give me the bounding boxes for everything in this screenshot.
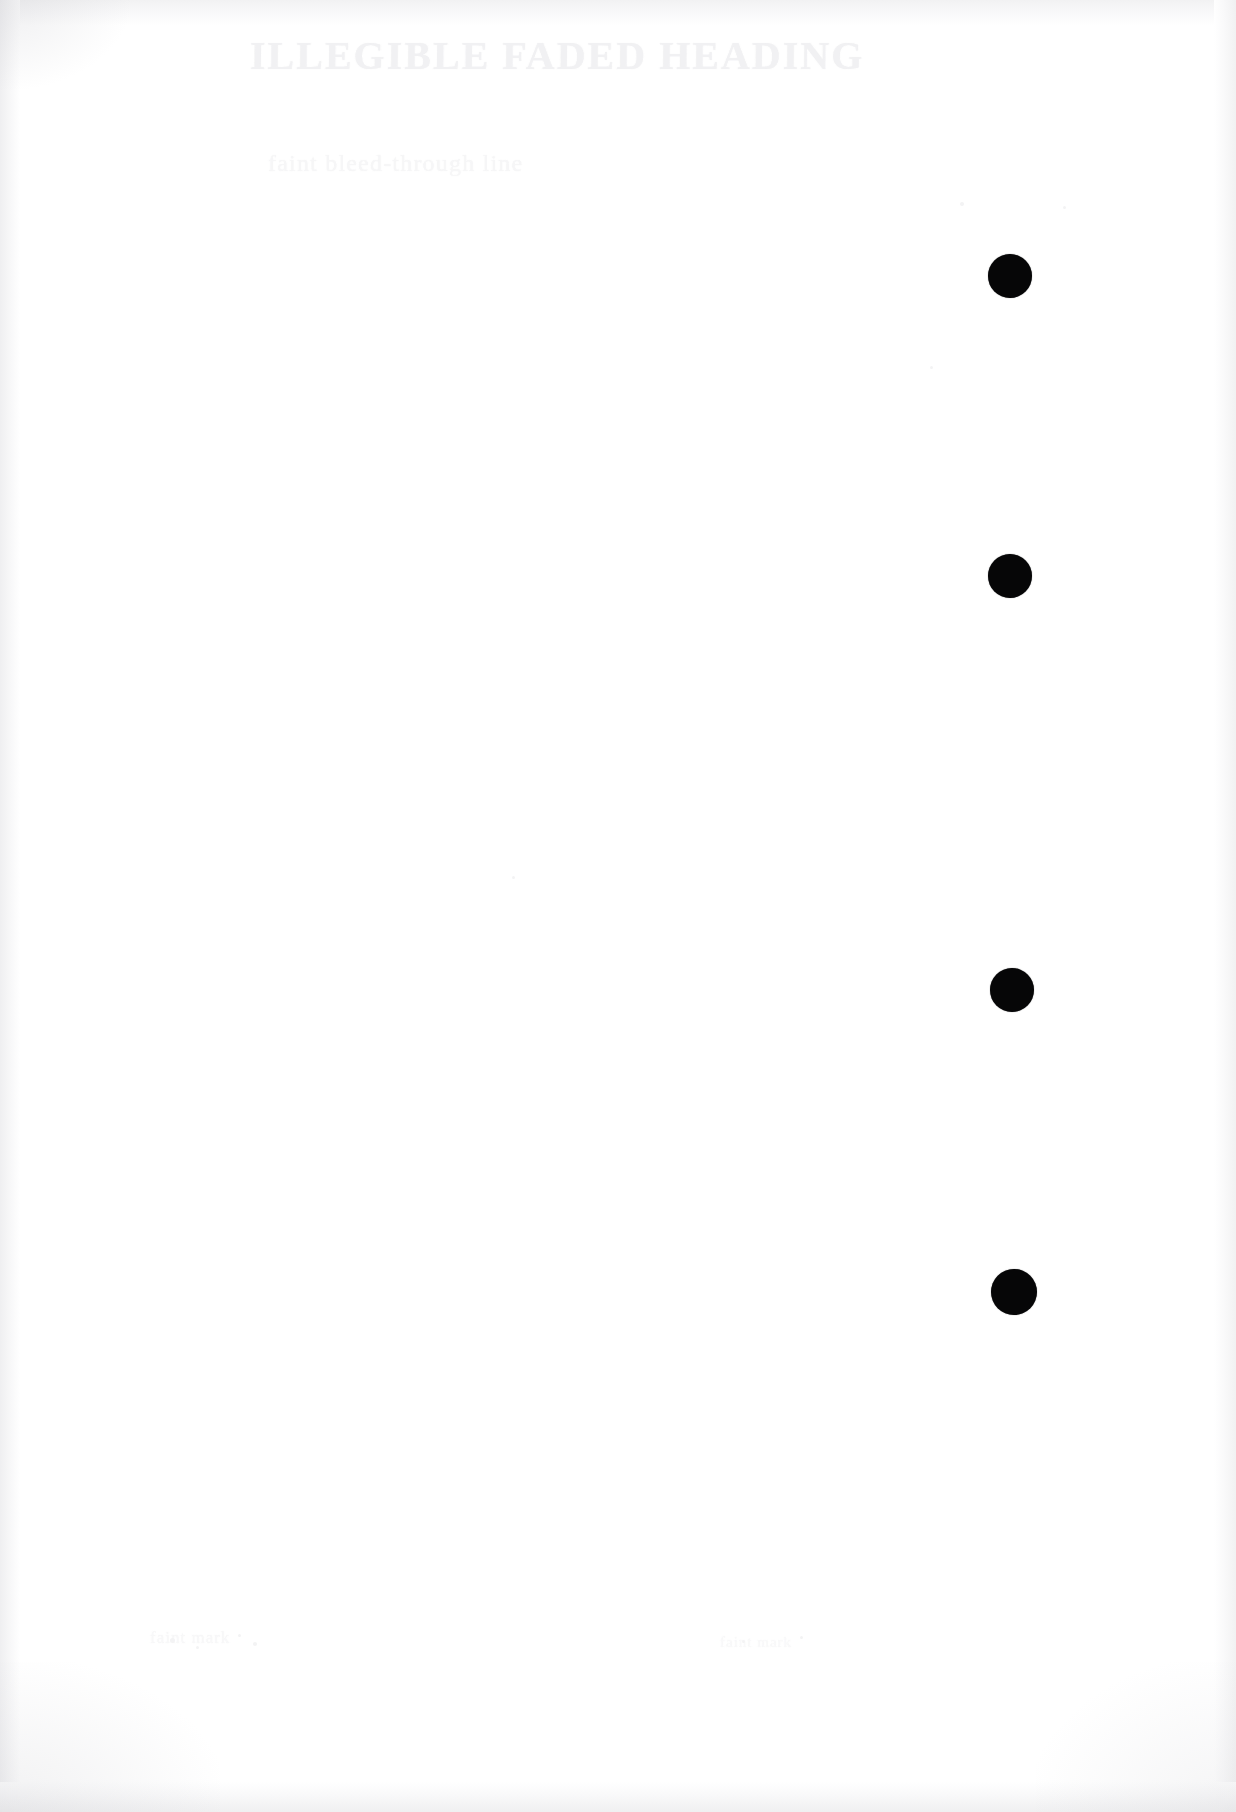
register-dot-1-icon xyxy=(988,254,1032,298)
scan-speck xyxy=(930,366,933,369)
scan-corner-bottom-right xyxy=(1036,1662,1236,1812)
faded-footer-left: faint mark xyxy=(150,1628,230,1648)
scan-edge-left xyxy=(0,0,20,1812)
scan-speck xyxy=(253,1642,257,1646)
faded-footer-right: faint mark xyxy=(720,1634,792,1651)
scan-speck xyxy=(800,1636,803,1639)
scan-corner-bottom-left xyxy=(0,1662,220,1812)
scan-speck xyxy=(960,202,964,206)
faded-subtitle: faint bleed-through line xyxy=(268,150,523,177)
scan-edge-top xyxy=(0,0,1236,26)
scan-edge-right xyxy=(1214,0,1236,1812)
scan-edge-bottom xyxy=(0,1782,1236,1812)
register-dot-2-icon xyxy=(988,554,1032,598)
scan-speck xyxy=(512,876,515,879)
scan-corner-top-left xyxy=(0,0,130,90)
register-dot-4-icon xyxy=(991,1269,1037,1315)
scan-speck xyxy=(1063,206,1066,209)
scan-speck xyxy=(238,1634,241,1637)
register-dot-3-icon xyxy=(990,968,1034,1012)
faded-heading: ILLEGIBLE FADED HEADING xyxy=(250,32,865,79)
scanned-page: ILLEGIBLE FADED HEADING faint bleed-thro… xyxy=(0,0,1236,1812)
